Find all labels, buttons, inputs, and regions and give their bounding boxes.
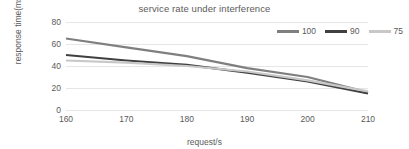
series-lines — [66, 22, 368, 110]
y-tick-label: 40 — [52, 61, 61, 71]
y-tick-label: 20 — [52, 83, 61, 93]
series-line-75 — [66, 61, 368, 92]
chart-title: service rate under interference — [0, 3, 409, 14]
y-tick-label: 60 — [52, 39, 61, 49]
x-tick-label: 160 — [59, 114, 73, 124]
x-tick-label: 200 — [301, 114, 315, 124]
y-tick-label: 80 — [52, 17, 61, 27]
x-tick-label: 180 — [180, 114, 194, 124]
x-tick-label: 170 — [119, 114, 133, 124]
x-tick-label: 210 — [361, 114, 375, 124]
chart-container: service rate under interference 1009075 … — [0, 0, 409, 149]
legend-swatch-icon — [369, 30, 391, 33]
legend-item-75[interactable]: 75 — [369, 27, 403, 36]
x-tick-label: 190 — [240, 114, 254, 124]
x-axis-title: request/s — [0, 137, 409, 147]
gridline — [66, 110, 368, 111]
legend-label: 75 — [394, 27, 403, 36]
y-axis-title: response time(ms) — [13, 0, 23, 74]
series-line-90 — [66, 55, 368, 94]
plot-area: 020406080 160170180190200210 — [66, 22, 368, 110]
